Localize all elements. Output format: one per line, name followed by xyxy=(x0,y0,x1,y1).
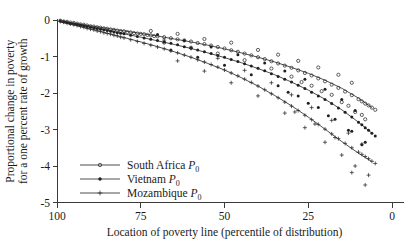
data-point-dot xyxy=(236,60,239,63)
data-point-dot xyxy=(337,106,340,109)
data-point-circle xyxy=(243,59,246,62)
data-point-circle xyxy=(270,67,273,70)
y-tick-label: -1 xyxy=(40,51,50,63)
data-point-plus xyxy=(196,58,200,62)
data-point-plus xyxy=(357,150,361,154)
data-point-dot xyxy=(116,31,119,34)
data-point-dot xyxy=(360,123,363,126)
data-point-plus xyxy=(340,153,344,157)
data-point-plus xyxy=(223,68,227,72)
y-axis-title-line2: for a one percent rate of growth xyxy=(17,38,30,184)
x-axis-title: Location of poverty line (percentile of … xyxy=(107,226,343,239)
data-point-dot xyxy=(156,33,159,36)
data-point-dot xyxy=(303,87,306,90)
data-point-dot xyxy=(156,39,159,42)
data-point-plus xyxy=(256,84,260,88)
data-point-dot xyxy=(223,56,226,59)
data-point-dot xyxy=(350,130,353,133)
data-point-circle xyxy=(330,93,333,96)
data-point-plus xyxy=(176,51,180,55)
data-point-dot xyxy=(307,102,310,105)
data-point-circle xyxy=(256,48,259,51)
data-point-dot xyxy=(223,64,226,67)
data-point-plus xyxy=(360,142,364,146)
data-point-dot xyxy=(263,62,266,65)
data-point-dot xyxy=(340,98,343,101)
data-point-dot xyxy=(367,129,370,132)
data-point-circle xyxy=(149,29,152,32)
data-point-circle xyxy=(300,80,303,83)
data-point-circle xyxy=(277,53,280,56)
data-point-dot xyxy=(283,78,286,81)
data-point-dot xyxy=(176,43,179,46)
data-point-dot xyxy=(230,58,233,61)
data-point-plus xyxy=(182,53,186,57)
x-tick-label: 75 xyxy=(135,210,147,222)
data-point-plus xyxy=(216,65,220,69)
y-tick-label: -5 xyxy=(40,197,50,209)
data-point-circle xyxy=(203,37,206,40)
data-point-dot xyxy=(119,32,122,35)
x-tick-label: 25 xyxy=(303,210,315,222)
data-point-dot xyxy=(324,88,327,91)
data-point-dot xyxy=(203,50,206,53)
data-point-plus xyxy=(350,171,354,175)
data-point-dot xyxy=(210,52,213,55)
data-point-plus xyxy=(209,63,213,67)
data-point-plus xyxy=(353,164,357,168)
data-point-dot xyxy=(149,38,152,41)
data-point-dot xyxy=(357,121,360,124)
data-point-plus xyxy=(269,81,273,85)
data-point-dot xyxy=(303,78,306,81)
data-point-dot xyxy=(370,132,373,135)
data-point-dot xyxy=(123,32,126,35)
fit-curve-dot xyxy=(60,21,372,133)
legend-symbol: P xyxy=(190,187,198,199)
data-point-dot xyxy=(243,62,246,65)
data-point-dot xyxy=(350,116,353,119)
data-point-plus xyxy=(189,55,193,59)
data-point-plus xyxy=(162,47,166,51)
data-point-plus xyxy=(216,56,220,60)
data-point-dot xyxy=(277,84,280,87)
data-point-dot xyxy=(327,114,330,117)
data-point-plus xyxy=(323,140,327,144)
data-point-dot xyxy=(250,64,253,67)
data-point-dot xyxy=(183,45,186,48)
figure-container: 0-1-2-3-4-51007550250 South Africa P0Vie… xyxy=(0,0,410,249)
data-point-dot xyxy=(143,36,146,39)
data-point-plus xyxy=(122,36,126,40)
y-tick-label: -4 xyxy=(40,160,50,172)
data-point-plus xyxy=(367,173,371,177)
data-point-dot xyxy=(324,98,327,101)
data-point-plus xyxy=(229,81,233,85)
data-point-plus xyxy=(135,40,139,44)
data-point-dot xyxy=(364,141,367,144)
data-point-plus xyxy=(330,118,334,122)
data-point-plus xyxy=(202,60,206,64)
y-tick-label: 0 xyxy=(44,14,50,26)
data-point-dot xyxy=(210,46,213,49)
data-point-dot xyxy=(310,91,313,94)
data-point-dot xyxy=(270,72,273,75)
data-point-plus xyxy=(243,68,247,72)
data-point-circle xyxy=(230,41,233,44)
data-point-dot xyxy=(183,39,186,42)
data-point-dot xyxy=(287,91,290,94)
data-point-circle xyxy=(350,81,353,84)
data-point-dot xyxy=(277,75,280,78)
x-tick-label: 50 xyxy=(219,210,231,222)
data-point-dot xyxy=(290,81,293,84)
data-point-dot xyxy=(344,111,347,114)
data-point-dot xyxy=(374,135,377,138)
data-point-plus xyxy=(303,126,307,130)
data-point-plus xyxy=(373,161,377,165)
data-point-plus xyxy=(363,183,367,187)
data-point-circle xyxy=(337,73,340,76)
data-point-plus xyxy=(290,93,294,97)
data-point-dot xyxy=(169,42,172,45)
data-point-plus xyxy=(176,59,180,63)
data-point-dot xyxy=(129,34,132,37)
data-point-plus xyxy=(149,43,153,47)
data-point-dot xyxy=(330,102,333,105)
